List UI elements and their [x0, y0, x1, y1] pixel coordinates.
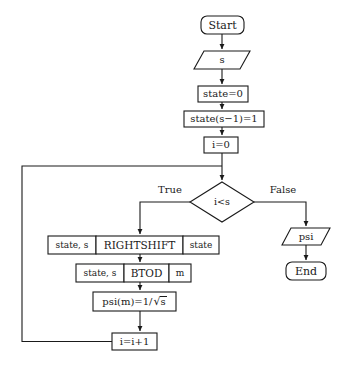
- psi-assign-prefix: psi(m)=1/: [102, 297, 152, 307]
- node-label-i-increment: i=i+1: [112, 333, 157, 350]
- node-label-start: Start: [201, 16, 244, 34]
- node-label-i-init: i=0: [204, 137, 238, 153]
- node-label-decision: i<s: [202, 194, 242, 210]
- flowchart-canvas: Start s state=0 state(s−1)=1 i=0 i<s Tru…: [0, 0, 348, 367]
- node-label-state-init: state=0: [198, 86, 248, 102]
- node-label-psi-assign: psi(m)=1/√s: [93, 292, 176, 311]
- sqrt-radical-icon: √s: [152, 296, 166, 307]
- node-label-btod-outputs: m: [169, 264, 191, 282]
- edge-true-branch: [140, 202, 190, 234]
- node-label-btod-name: BTOD: [124, 264, 169, 282]
- branch-label-false: False: [262, 183, 304, 197]
- branch-label-true: True: [150, 183, 190, 197]
- node-label-btod-inputs: state, s: [76, 264, 124, 282]
- node-label-state-set: state(s−1)=1: [184, 111, 264, 127]
- node-label-rightshift-inputs: state, s: [48, 236, 96, 254]
- node-label-input-s: s: [199, 51, 245, 69]
- node-label-output-psi: psi: [285, 228, 327, 245]
- node-label-end: End: [286, 262, 326, 280]
- edge-false-branch: [254, 202, 306, 226]
- psi-assign-radicand: s: [160, 296, 167, 307]
- node-label-rightshift-outputs: state: [183, 236, 219, 254]
- node-label-rightshift-name: RIGHTSHIFT: [96, 236, 183, 254]
